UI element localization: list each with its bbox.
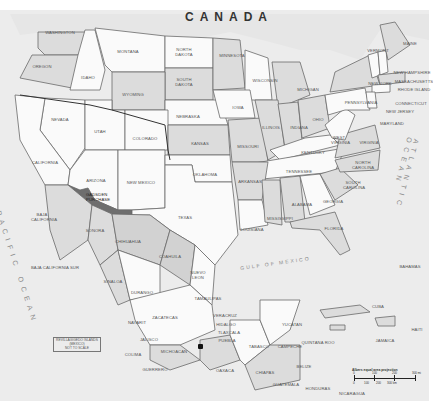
label-north-carolina: NORTH CAROLINA	[352, 161, 374, 170]
scale-mi-300: 300 mi	[412, 371, 421, 375]
label-chihuahua: CHIHUAHUA	[115, 240, 141, 245]
capital-marker-icon	[198, 344, 203, 349]
label-south-dakota: SOUTH DAKOTA	[173, 78, 195, 87]
label-honduras: HONDURAS	[306, 387, 331, 392]
label-chiapas: CHIAPAS	[256, 371, 275, 376]
label-oklahoma: OKLAHOMA	[193, 173, 218, 178]
label-kentucky: KENTUCKY	[301, 151, 325, 156]
label-nebraska: NEBRASKA	[176, 115, 200, 120]
label-cuba: CUBA	[372, 305, 384, 310]
label-zacatecas: ZACATECAS	[152, 316, 178, 321]
scale-km-0: 0	[353, 381, 355, 385]
label-massachusetts: MASSACHUSETTS	[395, 80, 433, 85]
label-rhode-island: RHODE ISLAND	[398, 88, 431, 93]
label-belize: BELIZE	[296, 365, 311, 370]
inset-line-3: NOT TO SCALE	[54, 346, 100, 350]
label-wisconsin: WISCONSIN	[252, 79, 277, 84]
label-virginia: VIRGINIA	[359, 141, 378, 146]
label-arizona: ARIZONA	[86, 179, 105, 184]
label-pennsylvania: PENNSYLVANIA	[345, 101, 378, 106]
label-veracruz: VERACRUZ	[213, 314, 237, 319]
label-kansas: KANSAS	[191, 142, 209, 147]
label-campeche: CAMPECHE	[278, 345, 303, 350]
label-sinaloa: SINALOA	[104, 280, 123, 285]
label-durango: DURANGO	[131, 291, 153, 296]
label-georgia: GEORGIA	[323, 200, 343, 205]
label-florida: FLORIDA	[325, 227, 344, 232]
label-oregon: OREGON	[32, 65, 51, 70]
label-maine: MAINE	[403, 42, 417, 47]
label-new-hampshire: NEW HAMPSHIRE	[393, 71, 430, 76]
label-nayarit: NAYARIT	[128, 321, 146, 326]
island-hispaniola	[375, 316, 395, 326]
scale-line	[354, 378, 416, 379]
island-jamaica	[330, 325, 345, 330]
label-yucatan: YUCATAN	[282, 323, 302, 328]
label-colima: COLIMA	[125, 353, 142, 358]
label-missouri: MISSOURI	[237, 145, 259, 150]
label-ohio: OHIO	[312, 118, 323, 123]
scale-mi-0: 0	[353, 371, 355, 375]
label-tamaulipas: TAMAULIPAS	[195, 297, 222, 302]
label-guerrero: GUERRERO	[143, 368, 168, 373]
label-baja-california-sur: BAJA CALIFORNIA SUR	[31, 266, 79, 271]
label-baja-california: BAJA CALIFORNIA	[31, 213, 53, 222]
label-texas: TEXAS	[178, 216, 192, 221]
label-iowa: IOWA	[232, 106, 243, 111]
label-michoacan: MICHOACAN	[161, 350, 188, 355]
label-california: CALIFORNIA	[32, 161, 58, 166]
label-west-virginia: WEST VIRGINIA	[331, 136, 347, 145]
scale-tick	[415, 375, 416, 381]
label-arkansas: ARKANSAS	[238, 180, 262, 185]
label-tlaxcala: TLAXCALA	[218, 331, 240, 336]
label-michigan: MICHIGAN	[297, 88, 319, 93]
label-south-carolina: SOUTH CAROLINA	[343, 181, 363, 190]
label-bahamas: BAHAMAS	[399, 265, 420, 270]
label-indiana: INDIANA	[290, 126, 308, 131]
label-montana: MONTANA	[117, 50, 138, 55]
label-louisiana: LOUISIANA	[240, 228, 263, 233]
label-connecticut: CONNECTICUT	[395, 102, 427, 107]
label-wyoming: WYOMING	[122, 93, 144, 98]
label-haiti: HAITI	[411, 328, 422, 333]
label-guatemala: GUATEMALA	[273, 383, 299, 388]
inset-box-revillagigedo: REVILLAGIGEDO ISLANDS (MEXICO) NOT TO SC…	[53, 337, 101, 352]
label-oaxaca: OAXACA	[216, 369, 234, 374]
label-puebla: PUEBLA	[218, 339, 235, 344]
label-nicaragua: NICARAGUA	[339, 392, 365, 397]
label-minnesota: MINNESOTA	[219, 54, 244, 59]
label-idaho: IDAHO	[81, 76, 95, 81]
label-tennessee: TENNESSEE	[286, 170, 312, 175]
label-nevada: NEVADA	[51, 118, 69, 123]
label-alabama: ALABAMA	[292, 203, 312, 208]
label-gadsden-purchase: GADSDEN PURCHASE	[86, 193, 104, 202]
label-colorado: COLORADO	[133, 137, 158, 142]
label-illinois: ILLINOIS	[262, 126, 280, 131]
label-tabasco: TABASCO	[249, 345, 269, 350]
scale-km-300: 300 km	[387, 381, 397, 385]
label-utah: UTAH	[94, 130, 106, 135]
label-north-dakota: NORTH DAKOTA	[173, 48, 195, 57]
label-new-jersey: NEW JERSEY	[386, 110, 414, 115]
label-mississippi: MISSISSIPPI	[267, 217, 293, 222]
scale-km-100: 100	[364, 381, 369, 385]
country-label-canada: CANADA	[185, 10, 273, 24]
label-coahuila: COAHUILA	[159, 255, 181, 260]
label-vermont: VERMONT	[367, 49, 389, 54]
scale-mi-200: 200	[392, 371, 397, 375]
label-new-york: NEW YORK	[368, 82, 392, 87]
label-new-mexico: NEW MEXICO	[127, 181, 155, 186]
label-sonora: SONORA	[86, 229, 105, 234]
state-washington	[38, 32, 85, 55]
scale-tick	[374, 375, 375, 381]
label-jalisco: JALISCO	[140, 338, 158, 343]
label-nuevo-leon: NUEVO LEON	[190, 271, 206, 280]
label-hidalgo: HIDALGO	[216, 323, 236, 328]
state-minnesota	[213, 38, 245, 90]
label-maryland: MARYLAND	[380, 122, 404, 127]
label-washington: WASHINGTON	[45, 31, 75, 36]
label-quintana-roo: QUINTANA ROO	[302, 341, 335, 346]
label-jamaica: JAMAICA	[376, 339, 395, 344]
scale-bar: Albers equal area projection 0 100 200 3…	[352, 368, 422, 390]
scale-mi-100: 100	[372, 371, 377, 375]
